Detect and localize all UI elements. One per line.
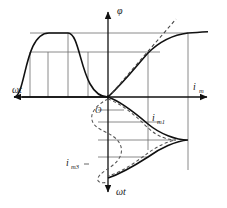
- figure-canvas: φ i m ωt ωt O i m1 i m3: [0, 0, 227, 208]
- im3-annotation: i m3: [66, 157, 80, 170]
- time-axis-left-label: ωt: [12, 84, 22, 95]
- svg-text:m3: m3: [71, 163, 80, 170]
- svg-text:i: i: [193, 81, 196, 92]
- axis-lines: [14, 12, 207, 192]
- current-axis-label: i m: [193, 81, 204, 94]
- construction-grid: [30, 33, 188, 170]
- svg-text:i: i: [152, 112, 155, 123]
- flux-axis-label: φ: [117, 5, 123, 16]
- svg-text:m1: m1: [157, 118, 165, 125]
- time-axis-bottom-label: ωt: [116, 186, 126, 197]
- linear-tangent-line: [112, 19, 176, 93]
- fundamental-harmonic-curve: [108, 99, 176, 176]
- origin-label: O: [95, 105, 102, 115]
- svg-text:m: m: [199, 87, 204, 94]
- svg-text:i: i: [66, 157, 69, 168]
- diagram-svg: φ i m ωt ωt O i m1 i m3: [0, 0, 227, 208]
- im1-annotation: i m1: [152, 112, 165, 125]
- flux-sine-wave: [14, 33, 108, 97]
